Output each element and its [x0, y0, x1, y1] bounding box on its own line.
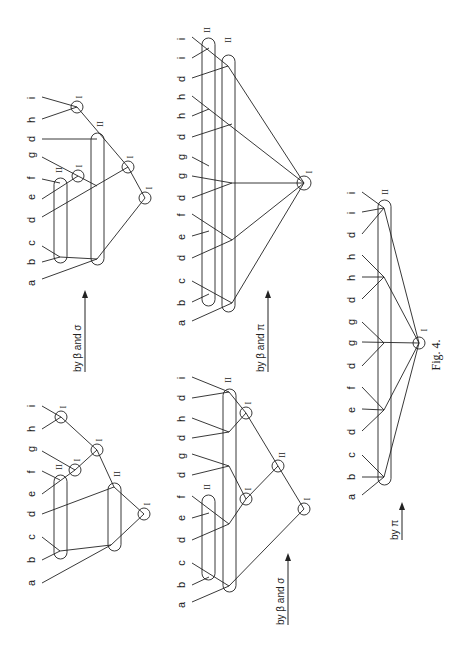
node-oval-ii — [202, 38, 215, 306]
tree-edge — [77, 107, 128, 167]
leaf-label: h — [175, 113, 187, 119]
leaf-label: a — [345, 493, 357, 500]
node-label: II — [95, 121, 105, 127]
node-oval-ii — [202, 495, 215, 580]
arrow-bottom-middle: by β and σ — [275, 557, 288, 625]
tree-edge — [192, 240, 232, 258]
leaf-label: d — [25, 217, 37, 223]
tree-edge — [232, 183, 304, 240]
tree-edge — [228, 66, 304, 183]
tree-edge — [192, 124, 232, 137]
leaf-label: h — [345, 254, 357, 260]
leaf-label: c — [25, 240, 37, 246]
leaf-label: a — [175, 601, 187, 608]
tree-edge — [246, 466, 278, 499]
tree-edge — [362, 277, 384, 299]
leaf-label: d — [345, 297, 357, 303]
leaf-label: a — [25, 279, 37, 286]
leaf-label: b — [345, 474, 357, 480]
leaf-label: i — [345, 212, 357, 214]
node-oval-ii — [54, 178, 67, 263]
tree-edge — [42, 179, 60, 183]
figure-4: IIIIIIIIabcdefgdhiIIIIIIIIabcdefghiIIIII… — [0, 0, 473, 658]
node-label: II — [223, 37, 233, 43]
leaf-label: h — [25, 117, 37, 123]
node-label: I — [304, 170, 314, 173]
arrow-label: by β and π — [255, 324, 266, 372]
node-label: I — [74, 95, 84, 98]
leaf-label: e — [25, 194, 37, 200]
leaf-label: e — [175, 234, 187, 240]
leaf-label: i — [25, 97, 37, 99]
leaf-label: h — [345, 275, 357, 281]
leaf-label: c — [175, 560, 187, 566]
tree-edge — [192, 48, 209, 58]
leaf-label: f — [175, 495, 187, 499]
tree-edge — [192, 231, 209, 236]
tree-edge — [232, 183, 304, 303]
diagram-3: IIIIIabcdefdggdhhdii — [175, 27, 314, 326]
tree-edge — [42, 537, 60, 551]
node-label: I — [243, 401, 253, 404]
arrow-bottom-right: by π — [389, 506, 402, 540]
tree-edge — [362, 455, 384, 477]
node-label: II — [112, 471, 122, 477]
leaf-label: e — [175, 515, 187, 521]
leaf-label: i — [175, 377, 187, 379]
tree-edge — [384, 208, 419, 343]
tree-edge — [192, 513, 209, 518]
tree-edge — [362, 343, 384, 366]
tree-edge — [192, 214, 232, 240]
leaf-label: g — [25, 152, 37, 158]
tree-edge — [192, 176, 232, 183]
tree-edge — [192, 281, 232, 303]
leaf-label: f — [25, 176, 37, 180]
node-label: I — [142, 502, 152, 505]
node-label: II — [54, 464, 64, 470]
leaf-label: c — [175, 278, 187, 284]
leaf-label: g — [175, 173, 187, 179]
node-label: I — [243, 487, 253, 490]
node-oval-ii — [108, 483, 121, 551]
tree-edge — [192, 577, 209, 585]
tree-edge — [384, 343, 419, 477]
arrow-label: by β and σ — [275, 577, 286, 625]
leaf-label: d — [175, 255, 187, 261]
arrow-top-middle: by β and π — [255, 294, 268, 372]
tree-edge — [362, 208, 384, 234]
tree-edge — [229, 509, 304, 586]
leaf-label: a — [25, 579, 37, 586]
tree-edge — [192, 109, 209, 116]
leaf-label: d — [175, 435, 187, 441]
leaf-label: d — [345, 232, 357, 238]
tree-edge — [362, 387, 384, 410]
node-label: I — [302, 497, 312, 500]
leaf-label: i — [345, 192, 357, 194]
leaf-label: h — [25, 426, 37, 432]
tree-edge — [278, 466, 304, 509]
tree-edge — [42, 97, 77, 107]
tree-edge — [362, 342, 419, 343]
node-label: I — [58, 405, 68, 408]
leaf-label: f — [25, 470, 37, 474]
tree-edge — [362, 477, 384, 495]
tree-edge — [42, 167, 128, 217]
node-label: I — [144, 186, 154, 189]
diagram-2: IIIIIIIIabcdefghi — [25, 405, 152, 586]
diagram-4: IIIIIIIIIabcdefdgdhdi — [175, 377, 312, 608]
tree-edge — [362, 409, 384, 410]
tree-edge — [192, 66, 228, 78]
diagram-5: IIIabcdefdggdhhdii — [345, 189, 429, 500]
leaf-label: g — [175, 154, 187, 160]
tree-edge — [60, 545, 111, 551]
tree-edge — [384, 343, 419, 410]
leaf-label: g — [175, 453, 187, 459]
leaf-label: f — [345, 386, 357, 390]
tree-edge — [362, 322, 384, 343]
leaf-label: i — [25, 405, 37, 407]
leaf-label: b — [25, 557, 37, 563]
leaf-label: g — [345, 340, 357, 346]
leaf-label: g — [345, 319, 357, 325]
leaf-label: b — [175, 582, 187, 588]
leaf-label: d — [345, 363, 357, 369]
